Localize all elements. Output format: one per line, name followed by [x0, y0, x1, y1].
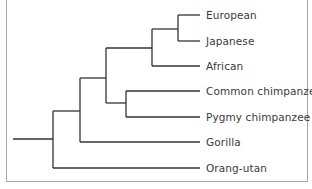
- label-pygmy-chimpanzee: Pygmy chimpanzee: [206, 111, 310, 123]
- label-common-chimpanzee: Common chimpanzee: [206, 85, 312, 97]
- label-african: African: [206, 60, 243, 72]
- label-gorilla: Gorilla: [206, 136, 241, 148]
- label-european: European: [206, 9, 257, 21]
- label-orang-utan: Orang-utan: [206, 162, 267, 174]
- label-japanese: Japanese: [206, 35, 254, 47]
